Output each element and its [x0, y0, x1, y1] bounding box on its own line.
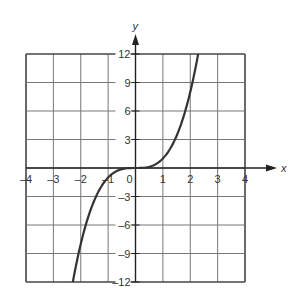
x-tick-label: 0 [126, 173, 132, 185]
y-tick-label: 6 [124, 105, 130, 117]
x-tick-label: 1 [160, 173, 166, 185]
y-tick-label: –12 [112, 276, 130, 288]
y-tick-label: –6 [118, 219, 130, 231]
y-axis-label: y [132, 20, 140, 32]
x-tick-label: 3 [215, 173, 221, 185]
y-axis-arrow-icon [132, 34, 139, 45]
y-tick-label: 12 [118, 48, 130, 60]
x-axis-label: x [280, 162, 287, 174]
y-tick-label: –9 [118, 248, 130, 260]
x-axis-arrow-icon [266, 165, 277, 172]
x-tick-label: 2 [187, 173, 193, 185]
x-tick-label: 4 [242, 173, 248, 185]
x-tick-label: –2 [75, 173, 87, 185]
y-tick-label: 3 [124, 134, 130, 146]
axes [26, 34, 277, 282]
cubic-function-graph: –4–3–2–10123412963–3–6–9–12 x y [0, 0, 292, 301]
x-tick-label: –4 [20, 173, 32, 185]
y-tick-label: 9 [124, 77, 130, 89]
y-tick-label: –3 [118, 191, 130, 203]
x-tick-label: –3 [47, 173, 59, 185]
